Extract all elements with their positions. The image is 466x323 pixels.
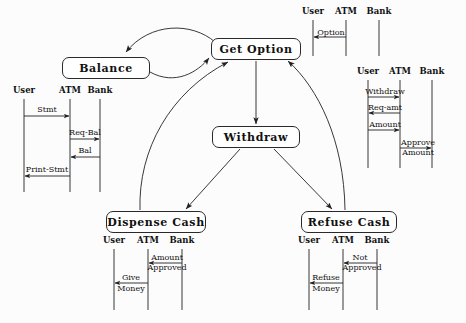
diagram-canvas: Balance Get Option Withdraw Dispense Cas…: [0, 0, 466, 323]
lifeline-head-bank: Bank: [88, 85, 113, 95]
message-label-approved: Approved: [342, 263, 381, 272]
message-label-option: Option: [317, 28, 344, 37]
message-label-amount: Amount: [369, 120, 401, 129]
lifeline-head-user: User: [298, 235, 320, 245]
state-get-option-label: Get Option: [219, 43, 292, 56]
lifeline-head-atm: ATM: [137, 235, 159, 245]
state-refuse-cash-label: Refuse Cash: [308, 216, 391, 229]
state-refuse-cash[interactable]: Refuse Cash: [301, 211, 397, 233]
lifeline-head-user: User: [103, 235, 125, 245]
message-label-approved: Approved: [147, 263, 186, 272]
message-label-money: Money: [117, 284, 144, 293]
message-label-refuse: Refuse: [312, 273, 340, 282]
message-label-give: Give: [122, 273, 140, 282]
message-label-req-amt: Req-amt: [368, 103, 402, 112]
message-label-not: Not: [352, 253, 367, 262]
state-withdraw[interactable]: Withdraw: [212, 126, 300, 148]
lifeline-head-atm: ATM: [389, 66, 411, 76]
message-label-approve: Approve: [401, 138, 435, 147]
message-label-money: Money: [312, 284, 339, 293]
state-get-option[interactable]: Get Option: [211, 38, 301, 60]
lifeline-head-user: User: [357, 66, 379, 76]
lifeline-head-bank: Bank: [420, 66, 445, 76]
message-label-amount: Amount: [151, 253, 183, 262]
lifeline-head-atm: ATM: [59, 85, 81, 95]
lifeline-head-bank: Bank: [367, 6, 392, 16]
state-balance[interactable]: Balance: [62, 57, 150, 79]
message-label-approve-amount: Amount: [402, 148, 434, 157]
message-label-withdraw: Withdraw: [365, 87, 405, 96]
lifeline-head-atm: ATM: [332, 235, 354, 245]
state-withdraw-label: Withdraw: [224, 131, 288, 144]
lifeline-head-user: User: [302, 6, 324, 16]
lifeline-head-user: User: [13, 85, 35, 95]
get-option-sequence-lines: [313, 20, 379, 56]
message-label-req-bal: Req-Bal: [69, 128, 101, 137]
state-dispense-cash-label: Dispense Cash: [107, 216, 205, 229]
message-label-stmt: Stmt: [37, 105, 57, 114]
message-label-bal: Bal: [78, 146, 91, 155]
state-dispense-cash[interactable]: Dispense Cash: [106, 211, 206, 233]
state-balance-label: Balance: [79, 62, 133, 75]
message-label-print-stmt: Print-Stmt: [26, 165, 68, 174]
lifeline-head-atm: ATM: [335, 6, 357, 16]
lifeline-head-bank: Bank: [170, 235, 195, 245]
lifeline-head-bank: Bank: [365, 235, 390, 245]
